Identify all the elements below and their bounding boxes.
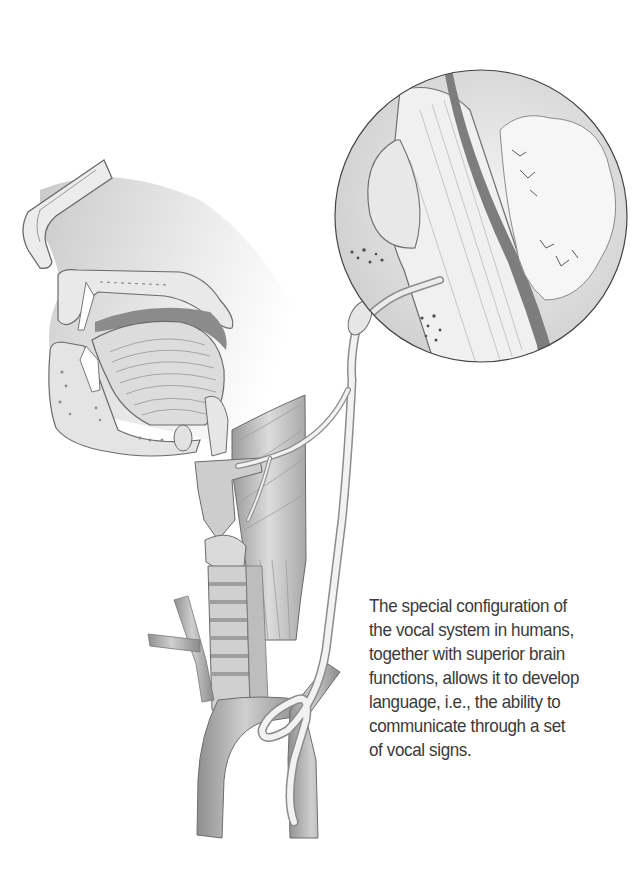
magnified-inset [335, 70, 627, 380]
caption: The special configuration of the vocal s… [369, 594, 617, 762]
head-sagittal-section [23, 160, 310, 456]
caption-line: functions, allows it to develop [369, 666, 617, 690]
caption-line: The special configuration of [369, 594, 617, 618]
caption-line: together with superior brain [369, 642, 617, 666]
hyoid-bone [174, 425, 192, 451]
caption-line: the vocal system in humans, [369, 618, 617, 642]
caption-line: language, i.e., the ability to [369, 690, 617, 714]
caption-line: of vocal signs. [369, 738, 617, 762]
caption-line: communicate through a set [369, 714, 617, 738]
